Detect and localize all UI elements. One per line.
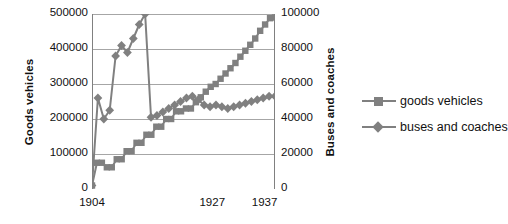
data-point-marker [129, 34, 138, 43]
data-point-marker [148, 132, 154, 138]
y-axis-left-ticks: 0100000200000300000400000500000 [26, 0, 88, 224]
series-buses-and-coaches [92, 14, 275, 189]
legend-item[interactable]: goods vehicles [362, 88, 508, 114]
data-point-marker [271, 92, 275, 101]
data-point-marker [138, 140, 144, 146]
y-axis-left-tick-label: 500000 [26, 6, 88, 18]
legend-label: goods vehicles [400, 94, 483, 108]
y-axis-right-tick-label: 100000 [281, 6, 343, 18]
data-point-marker [158, 124, 164, 130]
data-point-marker [111, 52, 120, 61]
legend-label: buses and coaches [400, 120, 508, 134]
y-axis-right-tick-label: 0 [281, 181, 343, 193]
data-point-marker [262, 21, 268, 27]
y-axis-left-tick-label: 200000 [26, 111, 88, 123]
data-point-marker [128, 148, 134, 154]
legend-item[interactable]: buses and coaches [362, 114, 508, 140]
legend-diamond-marker-icon [362, 121, 396, 133]
y-axis-left-tick-label: 300000 [26, 76, 88, 88]
y-axis-left-tick-label: 400000 [26, 41, 88, 53]
data-point-marker [257, 28, 263, 34]
data-point-marker [94, 94, 103, 103]
data-point-marker [135, 20, 144, 29]
plot-area [92, 14, 275, 189]
legend-square-marker-icon [362, 95, 396, 107]
data-point-marker [242, 48, 248, 54]
data-point-marker [109, 164, 115, 170]
data-point-marker [247, 42, 253, 48]
data-point-marker [232, 60, 238, 66]
plot-svg [92, 14, 275, 189]
data-point-marker [252, 35, 258, 41]
data-point-marker [168, 116, 174, 122]
y-axis-left-tick-label: 0 [26, 181, 88, 193]
data-point-marker [188, 105, 194, 111]
chart-legend: goods vehiclesbuses and coaches [362, 88, 508, 140]
y-axis-left-tick-label: 100000 [26, 146, 88, 158]
x-axis-tick-label: 1927 [199, 196, 225, 208]
data-point-marker [237, 54, 243, 60]
x-axis-tick-label: 1904 [79, 196, 105, 208]
y-axis-right-title: Buses and coaches [324, 42, 336, 162]
x-axis-tick-label: 1937 [252, 196, 278, 208]
data-point-marker [272, 14, 275, 20]
data-point-marker [118, 156, 124, 162]
